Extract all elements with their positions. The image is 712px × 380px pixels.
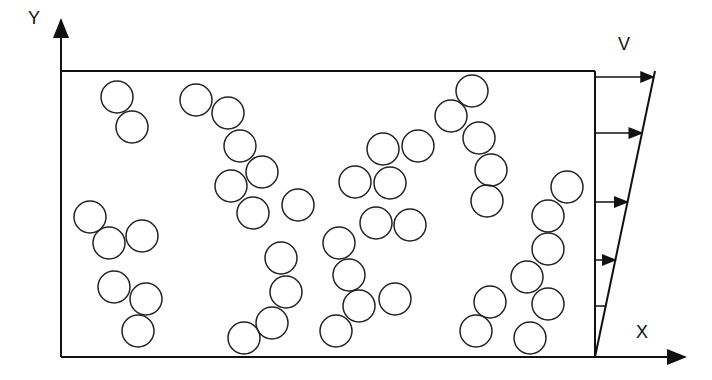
particle-circle [435,100,467,132]
particle-circle [93,227,125,259]
particle-circle [374,167,406,199]
particle-circle [126,220,158,252]
particle-circle [379,283,411,315]
particle-circle [532,288,564,320]
particle-circle [265,242,297,274]
particle-circle [474,286,506,318]
particle-circle [511,261,543,293]
particle-circle [122,315,154,347]
particle-circle [339,166,371,198]
particle-circle [471,185,503,217]
particle-circle [224,130,256,162]
particle-circle [333,259,365,291]
particle-circle [212,97,244,129]
particle-circle [246,156,278,188]
particle-circle [256,307,288,339]
particle-circle [343,290,375,322]
y-axis-label: Y [28,8,40,29]
particle-circle [460,315,492,347]
velocity-label: V [618,34,630,55]
particle-circle [101,81,133,113]
particle-circle [116,111,148,143]
particle-circle [514,322,546,354]
particle-circle [270,276,302,308]
particle-circle [456,75,488,107]
particle-circle [532,233,564,265]
flow-diagram: Y X V [0,0,712,380]
particle-circle [180,84,212,116]
particle-circle [98,271,130,303]
particle-circle [130,283,162,315]
particle-circle [360,207,392,239]
particle-circle [323,227,355,259]
particle-circle [228,322,260,354]
diagram-canvas [0,0,712,380]
particle-circle [367,133,399,165]
particle-circle [394,209,426,241]
particle-circle [551,171,583,203]
particle-circle [215,170,247,202]
x-axis-label: X [636,322,648,343]
particle-circle [237,197,269,229]
particle-circle [402,130,434,162]
particle-circle [463,122,495,154]
particle-circle [532,200,564,232]
particle-circle [320,315,352,347]
particle-circle [282,189,314,221]
velocity-profile-line [595,71,655,357]
particle-circle [475,154,507,186]
